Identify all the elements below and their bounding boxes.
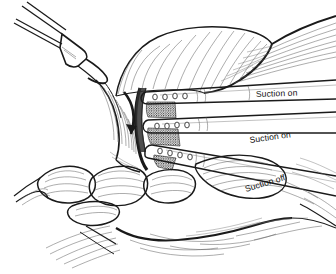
illustration-canvas: Suction on Suction on Suction off [0,0,336,274]
label-suction-on-top: Suction on [256,88,298,99]
surgical-illustration-figure: Suction on Suction on Suction off [0,0,336,274]
